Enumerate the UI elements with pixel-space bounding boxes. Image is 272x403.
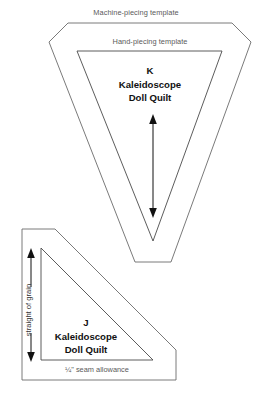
seam-allowance-label: ¼" seam allowance <box>65 365 129 374</box>
piece-j-letter: J <box>83 317 88 328</box>
hand-piecing-label: Hand-piecing template <box>113 37 188 46</box>
piece-k-machine-piecing-outline <box>49 23 251 262</box>
machine-piecing-label: Machine-piecing template <box>93 8 178 17</box>
piece-j-name-line1: Kaleidoscope <box>55 331 117 342</box>
piece-k-letter: K <box>147 65 154 76</box>
quilt-template-diagram: Machine-piecing template Hand-piecing te… <box>0 0 272 403</box>
template-page: Machine-piecing template Hand-piecing te… <box>0 0 272 403</box>
straight-of-grain-label: straight of grain <box>24 284 33 336</box>
piece-j-name-line2: Doll Quilt <box>65 344 108 355</box>
piece-k-name-line2: Doll Quilt <box>129 92 172 103</box>
piece-k-name-line1: Kaleidoscope <box>119 79 181 90</box>
